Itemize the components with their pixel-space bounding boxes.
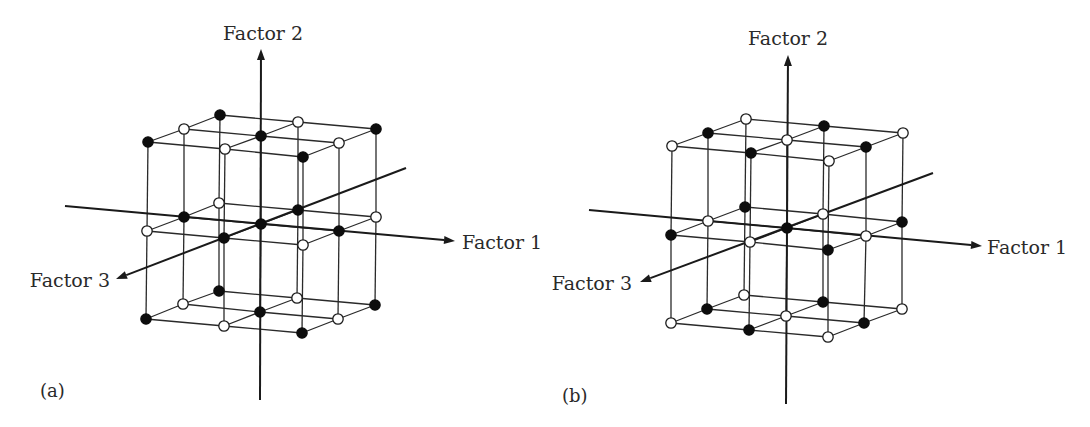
filled-design-point	[370, 300, 380, 310]
axis-factor-2	[786, 66, 788, 404]
open-design-point	[782, 135, 792, 145]
open-design-point	[861, 231, 871, 241]
lattice-edge	[749, 316, 786, 330]
open-design-point	[178, 299, 188, 309]
open-design-point	[667, 141, 677, 151]
filled-design-point	[141, 314, 151, 324]
arrowhead-icon	[971, 241, 982, 249]
panel-b-diagram: Factor 1Factor 2Factor 3 (b)	[552, 27, 1067, 406]
open-design-point	[898, 128, 908, 138]
axis-label-factor-3: Factor 3	[30, 269, 110, 291]
filled-design-point	[255, 307, 265, 317]
lattice-edge	[744, 295, 823, 302]
lattice-edge	[828, 161, 829, 250]
filled-design-point	[818, 297, 828, 307]
filled-design-point	[143, 137, 153, 147]
axis-label-factor-1: Factor 1	[462, 231, 542, 253]
filled-design-point	[897, 217, 907, 227]
filled-design-point	[703, 128, 713, 138]
lattice-edge	[671, 323, 749, 330]
lattice-edge	[864, 236, 866, 323]
lattice-edge	[146, 304, 183, 319]
lattice-edge	[146, 231, 147, 319]
lattice-edge	[298, 210, 376, 217]
lattice-edge	[147, 142, 148, 231]
open-design-point	[739, 290, 749, 300]
arrowhead-icon	[116, 271, 128, 279]
lattice-edge	[707, 295, 744, 309]
open-design-point	[220, 144, 230, 154]
open-design-point	[824, 156, 834, 166]
lattice-edge	[749, 330, 828, 337]
lattice-edge	[220, 115, 298, 122]
open-design-point	[745, 237, 755, 247]
filled-design-point	[782, 223, 792, 233]
lattice-edge	[787, 126, 824, 140]
lattice-edge	[183, 217, 184, 304]
filled-design-point	[219, 233, 229, 243]
arrowhead-icon	[784, 55, 792, 66]
axis-label-factor-1: Factor 1	[987, 236, 1067, 258]
lattice-edge	[823, 302, 902, 309]
filled-design-point	[666, 230, 676, 240]
filled-design-point	[746, 148, 756, 158]
open-design-point	[214, 198, 224, 208]
lattice-edge	[750, 242, 828, 250]
open-design-point	[703, 216, 713, 226]
panel-a-diagram: Factor 1Factor 2Factor 3 (a)	[30, 22, 542, 401]
open-design-point	[334, 138, 344, 148]
lattice-edge	[672, 146, 751, 153]
open-design-point	[298, 240, 308, 250]
filled-design-point	[179, 212, 189, 222]
filled-design-point	[823, 245, 833, 255]
axis-factor-1	[589, 210, 971, 245]
open-design-point	[142, 226, 152, 236]
lattice-edge	[261, 136, 339, 143]
filled-design-point	[861, 142, 871, 152]
lattice-edge	[339, 129, 376, 143]
open-design-point	[741, 114, 751, 124]
lattice-edge	[902, 133, 903, 222]
lattice-edge	[184, 129, 261, 136]
lattice-edge	[745, 119, 746, 207]
lattice-edge	[183, 304, 260, 312]
lattice-edge	[338, 231, 339, 319]
lattice-edge	[375, 217, 376, 305]
lattice-edge	[147, 217, 184, 231]
arrowhead-icon	[257, 49, 265, 60]
filled-design-point	[371, 124, 381, 134]
lattice-edge	[260, 298, 297, 312]
lattice-edge	[787, 140, 866, 147]
open-design-point	[823, 332, 833, 342]
filled-design-point	[740, 202, 750, 212]
open-design-point	[219, 321, 229, 331]
arrowhead-icon	[444, 236, 455, 244]
filled-design-point	[702, 304, 712, 314]
lattice-edge	[749, 242, 750, 330]
lattice-edge	[823, 214, 902, 222]
lattice-edge	[302, 245, 303, 333]
panel-label-a: (a)	[40, 380, 65, 401]
lattice-edge	[786, 302, 823, 316]
open-design-point	[371, 212, 381, 222]
lattice-edge	[225, 149, 303, 157]
lattice-edge	[219, 115, 220, 203]
filled-design-point	[214, 286, 224, 296]
lattice-edge	[224, 149, 225, 238]
lattice-edge	[823, 126, 824, 214]
filled-design-point	[859, 318, 869, 328]
open-design-point	[781, 311, 791, 321]
open-design-point	[293, 117, 303, 127]
lattice-edge	[224, 326, 302, 333]
filled-design-point	[334, 226, 344, 236]
filled-design-point	[256, 219, 266, 229]
arrowhead-icon	[640, 274, 652, 282]
lattice-edge	[671, 146, 672, 235]
lattice-edge	[750, 153, 751, 242]
lattice-edge	[671, 235, 750, 242]
lattice-edge	[147, 231, 224, 238]
lattice-edge	[224, 238, 303, 245]
lattice-edge	[708, 119, 746, 133]
lattice-edge	[219, 203, 298, 210]
lattice-edge	[707, 309, 786, 316]
